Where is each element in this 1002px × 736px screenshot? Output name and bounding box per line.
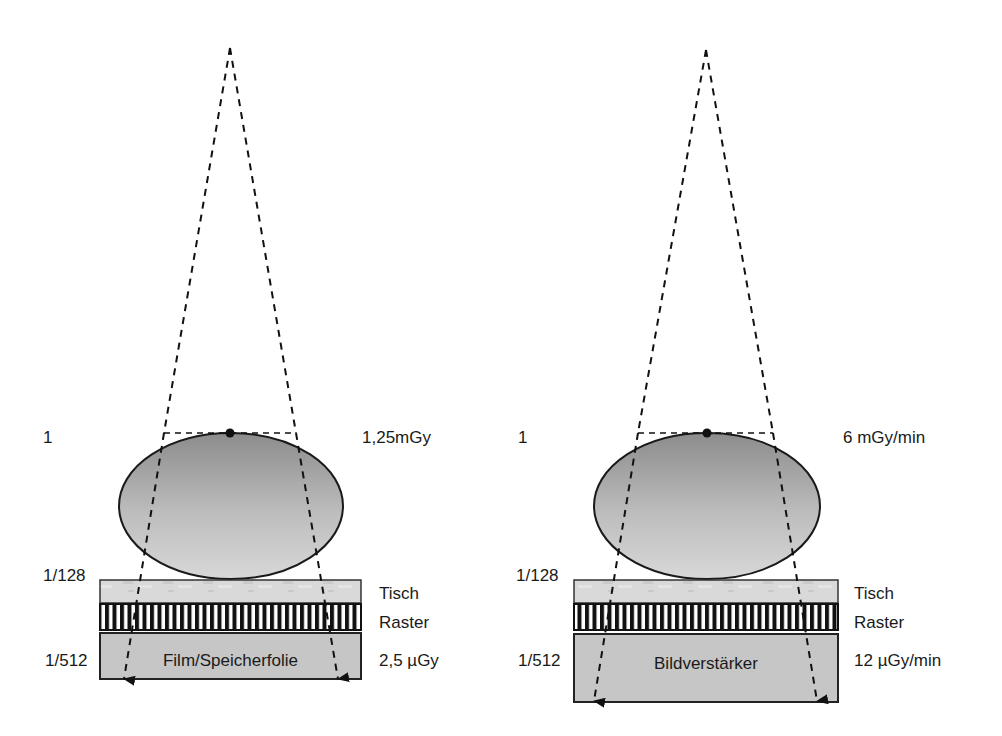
beam-edge-right-upper <box>706 50 773 433</box>
panel-fluoroscopy <box>574 50 838 702</box>
entrance-point-dot <box>226 429 235 438</box>
grid-layer <box>574 604 838 630</box>
beam-edge-left-upper <box>164 48 230 433</box>
grid-label: Raster <box>854 613 904 633</box>
grid-label: Raster <box>379 613 429 633</box>
detector-label: Bildverstärker <box>574 654 838 674</box>
dose-diagram <box>0 0 1002 736</box>
patient-body <box>119 433 343 579</box>
entrance-ratio-label: 1 <box>518 428 527 448</box>
panel-radiography <box>100 48 361 679</box>
entrance-point-dot <box>703 429 712 438</box>
detector-dose-label: 12 µGy/min <box>854 651 941 671</box>
detector-label: Film/Speicherfolie <box>100 651 361 671</box>
detector-ratio-label: 1/512 <box>45 651 88 671</box>
entrance-ratio-label: 1 <box>43 428 52 448</box>
beam-edge-left-upper <box>638 50 706 433</box>
entrance-dose-label: 1,25mGy <box>362 428 431 448</box>
grid-layer <box>100 604 361 630</box>
table-label: Tisch <box>379 584 419 604</box>
detector-dose-label: 2,5 µGy <box>379 651 439 671</box>
table-ratio-label: 1/128 <box>516 566 559 586</box>
entrance-dose-label: 6 mGy/min <box>843 428 925 448</box>
patient-body <box>594 433 820 579</box>
detector-ratio-label: 1/512 <box>518 651 561 671</box>
table-label: Tisch <box>854 584 894 604</box>
table-ratio-label: 1/128 <box>43 566 86 586</box>
beam-edge-right-upper <box>230 48 296 433</box>
